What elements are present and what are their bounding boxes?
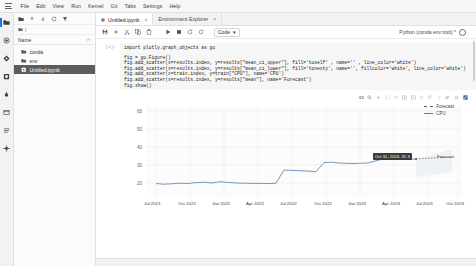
kernel-status[interactable]: Python (conda env:root) * bbox=[399, 29, 470, 36]
pan-icon[interactable] bbox=[376, 95, 382, 101]
plotly-figure[interactable]: 60 50 40 30 20 bbox=[120, 93, 476, 220]
list-item-label: conda bbox=[30, 49, 44, 55]
column-header-name[interactable]: Name bbox=[18, 37, 31, 43]
menu-item-edit[interactable]: Edit bbox=[33, 0, 49, 12]
list-item-label: env bbox=[30, 58, 38, 64]
list-item[interactable]: conda bbox=[14, 47, 95, 56]
zoom-icon[interactable] bbox=[367, 95, 373, 101]
restart-icon[interactable] bbox=[187, 29, 193, 35]
sidebar-item-open-tabs[interactable] bbox=[2, 108, 11, 117]
code-line-3: fig.add_scatter(x=train.index, y=train["… bbox=[124, 71, 284, 76]
notebook-scroll-area[interactable]: [1]: import plotly.graph_objects as go f… bbox=[96, 39, 476, 258]
code-line-4: fig.add_scatter(x=results.index, y=resul… bbox=[124, 77, 311, 82]
cell-editor[interactable]: import plotly.graph_objects as go fig = … bbox=[120, 43, 476, 90]
sidebar-item-extension-manager[interactable] bbox=[2, 72, 11, 81]
cut-icon[interactable] bbox=[124, 29, 130, 35]
forecast-chart[interactable]: 60 50 40 30 20 bbox=[120, 102, 470, 220]
hover-compare-icon[interactable] bbox=[445, 95, 451, 101]
plot-background bbox=[146, 106, 462, 198]
tab-environment-explorer[interactable]: Environment Explorer × bbox=[153, 13, 222, 25]
breadcrumb[interactable]: / bbox=[14, 25, 95, 34]
sidebar-item-running-kernels[interactable] bbox=[2, 36, 11, 45]
x-tick-7: Apr 2023 bbox=[382, 201, 400, 206]
paste-icon[interactable] bbox=[146, 29, 152, 35]
menu-item-settings[interactable]: Settings bbox=[139, 0, 166, 12]
legend-item-cpu[interactable]: CPU bbox=[424, 110, 454, 117]
box-select-icon[interactable] bbox=[384, 95, 390, 101]
stop-icon[interactable] bbox=[176, 29, 182, 35]
hover-closest-icon[interactable] bbox=[454, 95, 460, 101]
hover-tooltip: Oct 31, 2023, 32.3 bbox=[373, 153, 412, 160]
jupyterlab-window: File Edit View Run Kernel Git Tabs Setti… bbox=[0, 0, 476, 266]
x-tick-6: Jan 2023 bbox=[348, 201, 366, 206]
menu-item-run[interactable]: Run bbox=[68, 0, 85, 12]
x-tick-9: Oct 2023 bbox=[446, 201, 464, 206]
kernel-idle-indicator-icon bbox=[459, 29, 466, 36]
lasso-select-icon[interactable] bbox=[393, 95, 399, 101]
menu-item-view[interactable]: View bbox=[49, 0, 68, 12]
menu-item-help[interactable]: Help bbox=[166, 0, 184, 12]
list-item[interactable]: env bbox=[14, 56, 95, 65]
sidebar-item-debugger[interactable] bbox=[2, 90, 11, 99]
legend-swatch-forecast-icon bbox=[424, 106, 433, 107]
legend-item-forecast[interactable]: Forecast bbox=[424, 103, 454, 110]
restart-run-all-icon[interactable] bbox=[198, 29, 205, 35]
forecast-start-marker bbox=[415, 158, 417, 160]
new-folder-icon[interactable] bbox=[18, 16, 24, 22]
zoom-out-icon[interactable] bbox=[410, 95, 416, 101]
code-line-2: fig.add_scatter(x=results.index, y=resul… bbox=[124, 66, 466, 71]
menu-bar: File Edit View Run Kernel Git Tabs Setti… bbox=[0, 0, 476, 13]
code-line-0: fig = go.Figure() bbox=[124, 55, 171, 60]
cell-type-dropdown[interactable]: Code ▾ bbox=[214, 28, 240, 37]
code-line-1: fig.add_scatter(x=results.index, y=resul… bbox=[124, 60, 416, 65]
sidebar-item-git[interactable] bbox=[2, 54, 11, 63]
tab-bar: Untitled.ipynb × Environment Explorer × bbox=[96, 13, 476, 26]
zoom-in-icon[interactable] bbox=[402, 95, 408, 101]
file-browser-panel: / Name conda env bbox=[14, 13, 96, 266]
save-icon[interactable] bbox=[102, 29, 108, 35]
plotly-logo-icon[interactable] bbox=[463, 95, 469, 101]
copy-icon[interactable] bbox=[135, 29, 141, 35]
sidebar-item-file-browser[interactable] bbox=[0, 18, 11, 27]
reset-axes-icon[interactable] bbox=[428, 95, 434, 101]
folder-icon bbox=[21, 58, 27, 64]
code-cell[interactable]: [1]: import plotly.graph_objects as go f… bbox=[96, 39, 476, 90]
menu-item-tabs[interactable]: Tabs bbox=[121, 0, 139, 12]
main-menu-icon[interactable] bbox=[5, 3, 12, 9]
autoscale-icon[interactable] bbox=[419, 95, 425, 101]
x-tick-0: Jul 2021 bbox=[144, 201, 161, 206]
sidebar-item-table-of-contents[interactable] bbox=[2, 126, 11, 135]
list-item-untitled-notebook[interactable]: Untitled.ipynb bbox=[14, 65, 95, 74]
legend-label-cpu: CPU bbox=[436, 110, 446, 117]
x-tick-8: Jul 2023 bbox=[416, 201, 433, 206]
spike-lines-icon[interactable] bbox=[436, 95, 442, 101]
run-icon[interactable] bbox=[165, 29, 171, 35]
add-cell-icon[interactable] bbox=[113, 29, 119, 35]
tab-untitled-notebook[interactable]: Untitled.ipynb × bbox=[96, 13, 153, 25]
refresh-icon[interactable] bbox=[51, 16, 57, 22]
download-icon[interactable] bbox=[40, 16, 46, 22]
close-icon[interactable]: × bbox=[213, 16, 216, 22]
cell-type-value: Code bbox=[218, 29, 230, 35]
menu-item-file[interactable]: File bbox=[17, 0, 33, 12]
close-icon[interactable]: × bbox=[144, 17, 147, 23]
status-bar bbox=[96, 258, 476, 266]
x-tick-5: Oct 2022 bbox=[314, 201, 332, 206]
workspace: / Name conda env bbox=[0, 13, 476, 266]
chevron-down-icon: ▾ bbox=[233, 29, 236, 35]
code-body[interactable]: fig = go.Figure() fig.add_scatter(x=resu… bbox=[120, 53, 476, 91]
chart-legend[interactable]: Forecast CPU bbox=[424, 103, 454, 117]
vertical-scrollbar[interactable] bbox=[472, 39, 476, 258]
code-line-import[interactable]: import plotly.graph_objects as go bbox=[120, 43, 476, 53]
breadcrumb-path: / bbox=[25, 27, 26, 33]
list-item-label: Untitled.ipynb bbox=[30, 67, 60, 73]
chevron-up-icon[interactable] bbox=[86, 37, 91, 43]
sidebar-item-settings[interactable] bbox=[2, 144, 11, 153]
menu-item-git[interactable]: Git bbox=[107, 0, 121, 12]
filter-icon[interactable] bbox=[62, 16, 68, 22]
camera-icon[interactable] bbox=[358, 95, 364, 101]
scrollbar-thumb[interactable] bbox=[473, 41, 476, 81]
menu-item-kernel[interactable]: Kernel bbox=[85, 0, 108, 12]
upload-icon[interactable] bbox=[29, 16, 35, 22]
activity-bar bbox=[0, 13, 14, 266]
